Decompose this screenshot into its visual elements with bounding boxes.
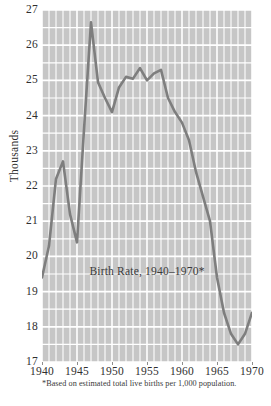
- x-axis-tick-1940: 1940: [22, 365, 62, 378]
- y-axis-tick-27: 27: [2, 4, 38, 16]
- x-axis-tick-1955: 1955: [127, 365, 167, 378]
- y-axis-tick-18: 18: [2, 321, 38, 333]
- y-axis-tick-19: 19: [2, 286, 38, 298]
- x-axis-tick-1950: 1950: [92, 365, 132, 378]
- y-axis-tick-26: 26: [2, 39, 38, 51]
- chart-title: Birth Rate, 1940–1970*: [42, 265, 252, 277]
- y-axis-tick-23: 23: [2, 145, 38, 157]
- y-axis-tick-20: 20: [2, 250, 38, 262]
- y-axis-tick-22: 22: [2, 180, 38, 192]
- birth-rate-line-series: [42, 10, 252, 362]
- x-axis-tick-1970: 1970: [232, 365, 271, 378]
- plot-area: Birth Rate, 1940–1970*: [42, 10, 252, 362]
- chart-footnote: *Based on estimated total live births pe…: [42, 379, 270, 389]
- x-axis-tick-1945: 1945: [57, 365, 97, 378]
- x-axis-tick-1965: 1965: [197, 365, 237, 378]
- y-axis-tick-25: 25: [2, 74, 38, 86]
- x-axis-tick-1960: 1960: [162, 365, 202, 378]
- y-axis-tick-24: 24: [2, 110, 38, 122]
- birth-rate-chart-figure: Thousands 1718192021222324252627 Birth R…: [0, 0, 271, 406]
- y-axis-tick-labels: 1718192021222324252627: [0, 0, 38, 406]
- y-axis-tick-21: 21: [2, 215, 38, 227]
